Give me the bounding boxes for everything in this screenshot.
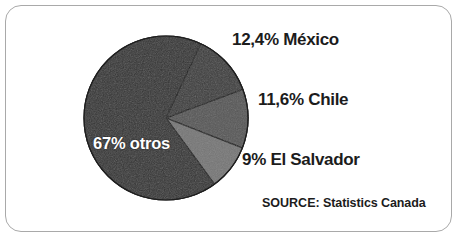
pie-label-otros: 67% otros [93,134,170,153]
chart-plot-area: 67% otros 12,4% México 11,6% Chile 9% El… [0,0,462,247]
pie-label-chile: 11,6% Chile [258,90,348,110]
pie-label-el-salvador: 9% El Salvador [242,150,360,170]
source-name: Statistics Canada [323,196,426,210]
pie-label-mexico: 12,4% México [232,30,339,50]
source-prefix: SOURCE: [262,196,320,210]
source-note: SOURCE: Statistics Canada [262,196,426,210]
pie-chart-figure: 67% otros 12,4% México 11,6% Chile 9% El… [0,0,462,247]
